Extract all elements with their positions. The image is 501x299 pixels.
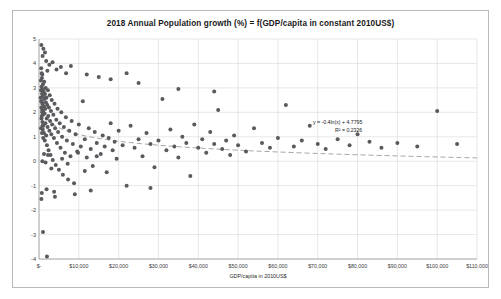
scatter-point (113, 140, 117, 144)
scatter-point (99, 152, 103, 156)
scatter-point (97, 75, 101, 79)
scatter-point (41, 54, 45, 58)
scatter-point (50, 123, 54, 127)
scatter-point (64, 71, 68, 75)
scatter-point (379, 146, 383, 150)
scatter-point (67, 129, 71, 133)
scatter-point (85, 72, 89, 76)
scatter-point (39, 116, 43, 120)
scatter-point (59, 65, 63, 69)
scatter-point (40, 76, 44, 80)
trendline-equation-label: y = -0.4ln(x) + 4.7795 (313, 119, 362, 125)
scatter-point (45, 187, 49, 191)
scatter-point (111, 148, 115, 152)
scatter-point (101, 134, 105, 138)
scatter-point (55, 68, 59, 72)
scatter-point (367, 140, 371, 144)
scatter-point (141, 154, 145, 158)
y-tick-label: 1 (33, 134, 36, 140)
scatter-point (44, 160, 48, 164)
chart-title: 2018 Annual Population growth (%) = f(GD… (13, 19, 488, 28)
x-tick-label: $110,000 (466, 263, 488, 269)
scatter-point (172, 145, 176, 149)
scatter-point (40, 124, 44, 128)
x-tick-label: $80,000 (348, 263, 367, 269)
scatter-point (47, 63, 51, 67)
scatter-point (66, 178, 70, 182)
scatter-point (52, 136, 56, 140)
scatter-point (40, 191, 44, 195)
scatter-point (41, 91, 45, 95)
x-tick-label: $40,000 (189, 263, 208, 269)
scatter-point (268, 146, 272, 150)
scatter-point (252, 126, 256, 130)
scatter-point (93, 130, 97, 134)
scatter-point (212, 90, 216, 94)
scatter-point (43, 50, 47, 54)
scatter-point (212, 142, 216, 146)
scatter-point (39, 43, 43, 47)
scatter-point (64, 115, 68, 119)
scatter-point (176, 156, 180, 160)
scatter-point (70, 119, 74, 123)
scatter-point (41, 230, 45, 234)
scatter-point (45, 255, 49, 259)
scatter-point (415, 145, 419, 149)
scatter-point (79, 145, 83, 149)
trendline-r-squared-label: R² = 0.2326 (335, 127, 362, 133)
scatter-point (188, 174, 192, 178)
scatter-point (73, 192, 77, 196)
y-tick-label: 4 (33, 60, 36, 66)
scatter-point (228, 153, 232, 157)
scatter-point (39, 66, 43, 70)
y-tick-label: -1 (31, 183, 36, 189)
scatter-point (76, 151, 80, 155)
scatter-point (125, 184, 129, 188)
scatter-point (103, 145, 107, 149)
scatter-point (148, 142, 152, 146)
scatter-point (395, 141, 399, 145)
scatter-point (125, 71, 129, 75)
scatter-point (95, 154, 99, 158)
scatter-point (336, 137, 340, 141)
scatter-point (60, 135, 64, 139)
scatter-point (44, 96, 48, 100)
scatter-point (40, 71, 44, 75)
scatter-point (83, 137, 87, 141)
scatter-point (59, 110, 63, 114)
scatter-point (164, 148, 168, 152)
scatter-point (117, 129, 121, 133)
scatter-point (81, 99, 85, 103)
x-axis-title: GDP/capita in 2010US$ (39, 273, 477, 279)
scatter-point (180, 135, 184, 139)
scatter-point (216, 108, 220, 112)
scatter-point (40, 131, 44, 135)
scatter-point (47, 129, 51, 133)
scatter-point (196, 146, 200, 150)
scatter-point (87, 126, 91, 130)
scatter-point (62, 125, 66, 129)
scatter-point (49, 132, 53, 136)
scatter-point (121, 143, 125, 147)
y-tick-label: -3 (31, 232, 36, 238)
scatter-point (46, 88, 50, 92)
scatter-point (260, 141, 264, 145)
x-tick-label: $70,000 (308, 263, 327, 269)
scatter-point (95, 141, 99, 145)
plot-wrapper: -4-3-2-1012345$-$10,000$20,000$30,000$40… (39, 39, 477, 259)
scatter-point (200, 137, 204, 141)
scatter-point (244, 149, 248, 153)
scatter-point (148, 186, 152, 190)
scatter-point (65, 138, 69, 142)
scatter-point (156, 138, 160, 142)
scatter-point (83, 169, 87, 173)
scatter-point (55, 141, 59, 145)
scatter-point (46, 125, 50, 129)
scatter-point (59, 146, 63, 150)
scatter-point (46, 153, 50, 157)
y-tick-label: -2 (31, 207, 36, 213)
scatter-point (51, 113, 55, 117)
scatter-point (54, 163, 58, 167)
y-tick-label: 0 (33, 158, 36, 164)
scatter-point (348, 143, 352, 147)
